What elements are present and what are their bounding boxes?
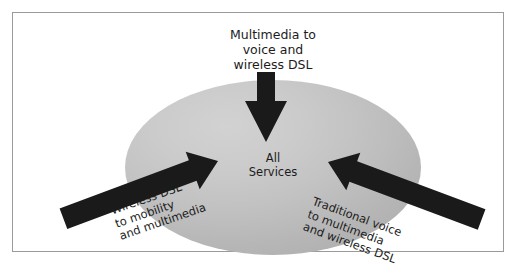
top-arrow-label: Multimedia to voice and wireless DSL (193, 28, 353, 72)
diagram-frame: Multimedia to voice and wireless DSL All… (12, 12, 504, 252)
diagram-canvas: Multimedia to voice and wireless DSL All… (0, 0, 520, 266)
